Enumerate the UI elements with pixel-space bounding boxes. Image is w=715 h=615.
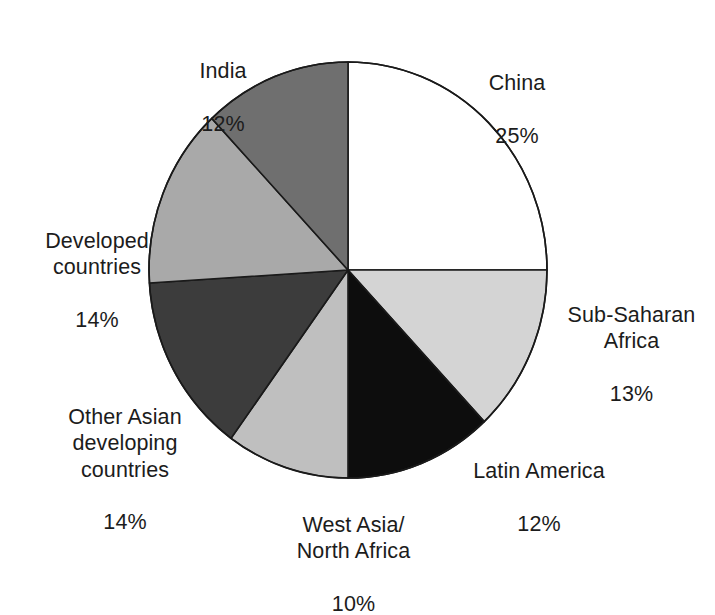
slice-label-other-asian-developing-countries-name: Other Asian developing countries [30, 404, 220, 483]
slice-label-india: India 12% [156, 32, 290, 163]
slice-label-developed-countries-name: Developed countries [8, 228, 186, 280]
slice-label-china-name: China [432, 70, 602, 96]
slice-label-sub-saharan-africa-name: Sub-Saharan Africa [548, 302, 715, 354]
slice-label-west-asia-north-africa: West Asia/ North Africa 10% [246, 486, 461, 615]
slice-label-latin-america-name: Latin America [434, 458, 644, 484]
slice-label-india-name: India [156, 58, 290, 84]
slice-label-china: China 25% [432, 44, 602, 175]
slice-label-developed-countries: Developed countries 14% [8, 202, 186, 359]
slice-label-india-percent: 12% [156, 111, 290, 137]
slice-label-west-asia-north-africa-name: West Asia/ North Africa [246, 512, 461, 564]
slice-label-other-asian-developing-countries-percent: 14% [30, 509, 220, 535]
slice-label-latin-america: Latin America 12% [434, 432, 644, 563]
slice-label-china-percent: 25% [432, 123, 602, 149]
slice-label-sub-saharan-africa: Sub-Saharan Africa 13% [548, 276, 715, 433]
slice-label-developed-countries-percent: 14% [8, 307, 186, 333]
slice-label-sub-saharan-africa-percent: 13% [548, 381, 715, 407]
slice-label-west-asia-north-africa-percent: 10% [246, 591, 461, 615]
slice-label-other-asian-developing-countries: Other Asian developing countries 14% [30, 378, 220, 562]
slice-label-latin-america-percent: 12% [434, 511, 644, 537]
